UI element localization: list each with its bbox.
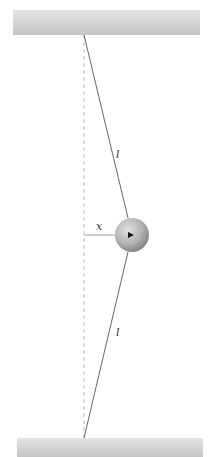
lower-string-label: l bbox=[116, 326, 120, 339]
string-mass-diagram: l l x bbox=[0, 0, 212, 457]
lower-string bbox=[84, 252, 128, 438]
upper-string bbox=[84, 35, 128, 218]
top-support bbox=[13, 10, 200, 35]
bottom-support bbox=[17, 438, 203, 457]
upper-string-label: l bbox=[116, 148, 120, 161]
displacement-label: x bbox=[96, 220, 103, 233]
